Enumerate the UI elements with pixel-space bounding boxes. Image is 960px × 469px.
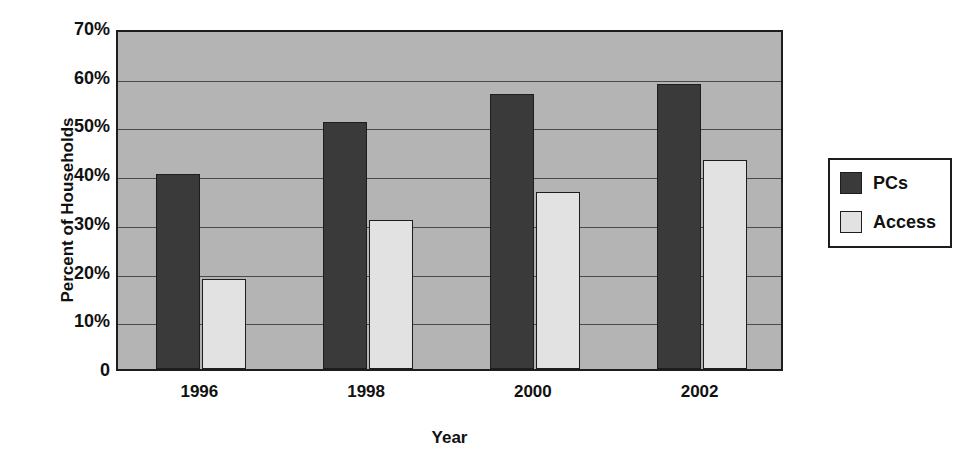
bar-access-2000 bbox=[536, 192, 580, 369]
bar-group-1996 bbox=[156, 32, 246, 369]
bar-group-1998 bbox=[323, 32, 413, 369]
y-tick-label-60: 60% bbox=[42, 69, 110, 87]
legend-swatch-pcs bbox=[840, 172, 862, 194]
bar-pcs-2002 bbox=[657, 84, 701, 369]
y-tick-label-30: 30% bbox=[42, 215, 110, 233]
plot-area bbox=[116, 30, 783, 371]
y-tick-label-70: 70% bbox=[42, 20, 110, 38]
bar-pcs-1996 bbox=[156, 174, 200, 369]
chart-legend: PCs Access bbox=[828, 158, 952, 248]
legend-item-access: Access bbox=[840, 211, 936, 233]
y-tick-label-20: 20% bbox=[42, 264, 110, 282]
bar-access-1998 bbox=[369, 220, 413, 369]
legend-label-pcs: PCs bbox=[873, 173, 908, 194]
legend-label-access: Access bbox=[873, 212, 936, 233]
legend-item-pcs: PCs bbox=[840, 172, 908, 194]
bar-pcs-1998 bbox=[323, 122, 367, 369]
bar-access-2002 bbox=[703, 160, 747, 369]
bars-layer bbox=[118, 32, 781, 369]
bar-group-2000 bbox=[490, 32, 580, 369]
x-tick-label-2000: 2000 bbox=[483, 382, 583, 402]
x-tick-label-1998: 1998 bbox=[316, 382, 416, 402]
y-axis-tick-labels: 010%20%30%40%50%60%70% bbox=[40, 0, 110, 469]
bar-access-1996 bbox=[202, 279, 246, 369]
x-tick-label-1996: 1996 bbox=[149, 382, 249, 402]
y-tick-label-50: 50% bbox=[42, 117, 110, 135]
y-tick-label-10: 10% bbox=[42, 312, 110, 330]
y-tick-label-40: 40% bbox=[42, 166, 110, 184]
bar-group-2002 bbox=[657, 32, 747, 369]
y-tick-label-0: 0 bbox=[42, 361, 110, 379]
x-tick-label-2002: 2002 bbox=[650, 382, 750, 402]
legend-swatch-access bbox=[840, 211, 862, 233]
chart-page: Percent of Households 010%20%30%40%50%60… bbox=[0, 0, 960, 469]
bar-pcs-2000 bbox=[490, 94, 534, 369]
x-axis-title: Year bbox=[116, 428, 783, 448]
